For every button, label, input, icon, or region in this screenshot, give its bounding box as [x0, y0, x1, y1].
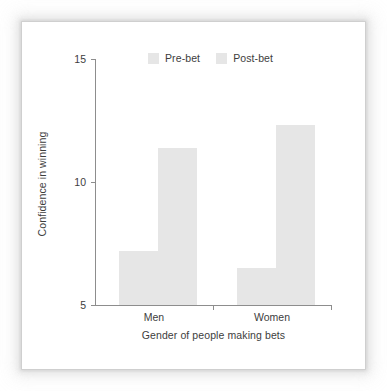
x-category-label-men: Men: [109, 311, 199, 323]
y-tick-label-10: 10: [60, 176, 86, 188]
bar-men-post-bet: [158, 148, 197, 305]
y-axis-title: Confidence in winning: [36, 99, 48, 269]
y-axis-line: [95, 59, 96, 306]
bar-chart: Pre-bet Post-bet 15 10 5 Men Women Confi…: [0, 0, 387, 391]
bar-women-pre-bet: [237, 268, 276, 305]
y-tick-label-5: 5: [60, 299, 86, 311]
legend-entry-post-bet: Post-bet: [216, 52, 273, 64]
x-tick-mark-end: [331, 306, 332, 310]
legend-entry-pre-bet: Pre-bet: [148, 52, 200, 64]
x-category-label-women: Women: [227, 311, 317, 323]
x-tick-mark-separator: [213, 306, 214, 310]
bar-women-post-bet: [276, 125, 315, 305]
bar-men-pre-bet: [119, 251, 158, 305]
y-tick-mark-5: [91, 305, 95, 306]
y-tick-label-15: 15: [60, 53, 86, 65]
y-tick-mark-10: [91, 182, 95, 183]
chart-legend: Pre-bet Post-bet: [148, 52, 273, 64]
legend-label-pre-bet: Pre-bet: [165, 52, 200, 64]
legend-swatch-post-bet: [216, 53, 227, 64]
legend-swatch-pre-bet: [148, 53, 159, 64]
legend-label-post-bet: Post-bet: [233, 52, 273, 64]
y-tick-mark-15: [91, 59, 95, 60]
x-axis-title: Gender of people making bets: [95, 329, 332, 341]
